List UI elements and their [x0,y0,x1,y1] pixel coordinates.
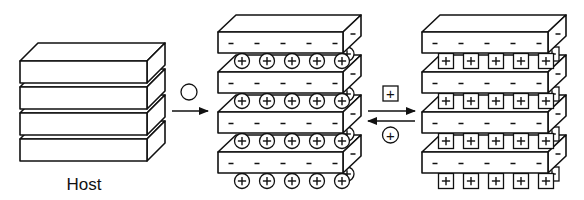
square-ion-intercalated-stack [422,15,566,189]
intercalation-diagram: Host + + [0,0,584,200]
svg-text:+: + [386,127,395,144]
circle-ion-intercalated-stack [218,15,361,189]
forward-arrow-circle-ion [172,84,208,111]
host-stack [20,43,165,161]
empty-circle-ion-icon [181,84,197,100]
svg-text:+: + [386,85,395,102]
host-label: Host [67,175,102,194]
ion-exchange-arrows: + + [368,85,415,144]
